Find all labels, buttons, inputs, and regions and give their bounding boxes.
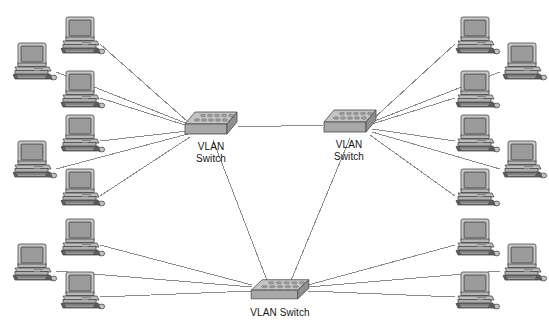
workstation-icon — [60, 216, 106, 258]
switch-label-line: VLAN — [182, 141, 240, 153]
switch-label-line: Switch — [320, 151, 378, 163]
workstation-icon — [455, 166, 501, 208]
workstation-icon — [502, 40, 548, 82]
vlan-switch-icon — [322, 108, 378, 138]
workstation-pc-r9[interactable] — [455, 269, 501, 311]
network-link — [372, 44, 455, 120]
vlan-switch-sw-left[interactable] — [183, 110, 239, 140]
workstation-icon — [12, 138, 58, 180]
workstation-icon — [60, 269, 106, 311]
workstation-icon — [60, 68, 106, 110]
workstation-icon — [60, 112, 106, 154]
workstation-pc-r7[interactable] — [455, 216, 501, 258]
network-diagram-canvas: VLANSwitchVLANSwitchVLAN Switch — [0, 0, 549, 329]
workstation-icon — [502, 241, 548, 283]
workstation-pc-r5[interactable] — [502, 138, 548, 180]
network-link — [372, 98, 455, 124]
workstation-pc-l5[interactable] — [12, 138, 58, 180]
switch-label-sw-right: VLANSwitch — [320, 139, 378, 163]
network-link — [100, 44, 188, 122]
workstation-pc-l1[interactable] — [60, 14, 106, 56]
workstation-icon — [455, 112, 501, 154]
workstation-icon — [455, 14, 501, 56]
network-link — [100, 245, 252, 285]
workstation-pc-r2[interactable] — [502, 40, 548, 82]
switch-label-line: VLAN — [320, 139, 378, 151]
network-link — [100, 291, 252, 297]
workstation-pc-l9[interactable] — [60, 269, 106, 311]
network-link — [100, 131, 188, 141]
workstation-pc-l4[interactable] — [60, 112, 106, 154]
network-link — [308, 291, 455, 297]
vlan-switch-sw-right[interactable] — [322, 108, 378, 138]
workstation-pc-r4[interactable] — [455, 112, 501, 154]
workstation-pc-l7[interactable] — [60, 216, 106, 258]
workstation-icon — [60, 14, 106, 56]
workstation-pc-r1[interactable] — [455, 14, 501, 56]
workstation-icon — [12, 241, 58, 283]
workstation-pc-r6[interactable] — [455, 166, 501, 208]
vlan-switch-sw-bottom[interactable] — [249, 278, 311, 304]
switch-label-sw-left: VLANSwitch — [182, 141, 240, 165]
vlan-switch-icon — [249, 278, 311, 304]
workstation-pc-l6[interactable] — [60, 166, 106, 208]
switch-label-line: Switch — [182, 153, 240, 165]
network-link — [372, 129, 455, 141]
network-link — [308, 245, 455, 285]
vlan-switch-icon — [183, 110, 239, 140]
workstation-icon — [60, 166, 106, 208]
workstation-pc-l2[interactable] — [12, 40, 58, 82]
workstation-icon — [502, 138, 548, 180]
workstation-pc-l3[interactable] — [60, 68, 106, 110]
workstation-icon — [455, 68, 501, 110]
network-link — [100, 98, 188, 126]
workstation-pc-r8[interactable] — [502, 241, 548, 283]
workstation-icon — [12, 40, 58, 82]
switch-label-line: VLAN Switch — [240, 307, 320, 319]
switch-label-sw-bottom: VLAN Switch — [240, 307, 320, 319]
workstation-icon — [455, 269, 501, 311]
network-link — [238, 125, 324, 127]
workstation-pc-r3[interactable] — [455, 68, 501, 110]
workstation-pc-l8[interactable] — [12, 241, 58, 283]
workstation-icon — [455, 216, 501, 258]
